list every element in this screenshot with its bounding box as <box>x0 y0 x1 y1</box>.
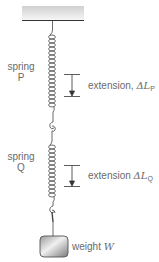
weight-label: weight W <box>72 241 114 252</box>
extension-p-text: extension, <box>88 80 136 91</box>
extension-p-subscript: P <box>150 85 155 92</box>
spring-diagram <box>0 0 159 262</box>
weight-text: weight <box>72 241 104 252</box>
extension-q-text: extension <box>88 170 134 181</box>
ceiling-support <box>22 6 84 21</box>
extension-p-label: extension, ΔLP <box>88 80 155 94</box>
spring-q-label: spring Q <box>6 151 36 173</box>
spring-p-coil <box>49 35 56 107</box>
connector-hook <box>50 107 55 145</box>
spring-p-label-line1: spring <box>6 61 36 72</box>
extension-q-subscript: Q <box>147 175 152 182</box>
spring-p-label-line2: P <box>6 72 36 83</box>
bottom-hook <box>50 197 55 237</box>
spring-q-label-line1: spring <box>6 151 36 162</box>
extension-q-arrow <box>64 166 80 187</box>
spring-q-coil <box>49 145 56 197</box>
extension-p-arrow <box>64 75 80 97</box>
extension-q-label: extension ΔLQ <box>88 170 153 184</box>
extension-q-symbol: ΔL <box>134 170 148 181</box>
spring-p-label: spring P <box>6 61 36 83</box>
extension-p-symbol: ΔL <box>136 80 150 91</box>
weight-symbol: W <box>104 241 114 252</box>
spring-q-label-line2: Q <box>6 162 36 173</box>
weight-block <box>40 236 68 257</box>
